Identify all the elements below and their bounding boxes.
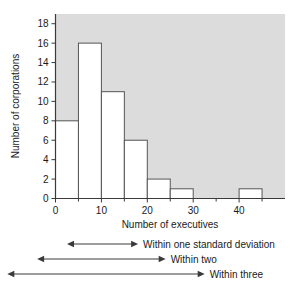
x-tick-label: 10 bbox=[96, 205, 108, 216]
annotation-label: Within two bbox=[171, 254, 218, 265]
histogram-bar bbox=[147, 179, 170, 198]
y-tick-label: 12 bbox=[37, 76, 49, 87]
annotation-arrow-head-right bbox=[159, 256, 166, 262]
annotation-arrow: Within two bbox=[37, 254, 217, 265]
annotation-label: Within three bbox=[210, 269, 264, 280]
histogram-bar bbox=[170, 189, 193, 199]
histogram-bar bbox=[124, 140, 147, 198]
annotation-arrows-group: Within one standard deviationWithin twoW… bbox=[7, 239, 275, 280]
annotation-label: Within one standard deviation bbox=[143, 239, 275, 250]
annotation-arrow-head-left bbox=[7, 271, 14, 277]
annotation-arrow-head-left bbox=[67, 241, 74, 247]
y-tick-label: 18 bbox=[37, 18, 49, 29]
x-axis-ticks: 010203040 bbox=[53, 199, 262, 216]
y-tick-label: 6 bbox=[43, 135, 49, 146]
x-axis-title: Number of executives bbox=[122, 219, 219, 230]
x-tick-label: 30 bbox=[188, 205, 200, 216]
histogram-bar bbox=[239, 189, 262, 199]
histogram-chart: 010203040 024681012141618 Number of exec… bbox=[0, 0, 299, 285]
x-tick-label: 0 bbox=[53, 205, 59, 216]
x-tick-label: 40 bbox=[234, 205, 246, 216]
y-tick-label: 16 bbox=[37, 38, 49, 49]
annotation-arrow-head-right bbox=[198, 271, 205, 277]
annotation-arrow: Within one standard deviation bbox=[67, 239, 275, 250]
annotation-arrow: Within three bbox=[7, 269, 263, 280]
y-tick-label: 10 bbox=[37, 96, 49, 107]
annotation-arrow-head-left bbox=[37, 256, 44, 262]
y-axis-ticks: 024681012141618 bbox=[37, 18, 55, 204]
histogram-figure: 010203040 024681012141618 Number of exec… bbox=[0, 0, 299, 285]
y-tick-label: 2 bbox=[43, 174, 49, 185]
y-axis-title: Number of corporations bbox=[10, 54, 21, 159]
y-tick-label: 4 bbox=[43, 154, 49, 165]
y-tick-label: 14 bbox=[37, 57, 49, 68]
x-tick-label: 20 bbox=[142, 205, 154, 216]
y-tick-label: 8 bbox=[43, 115, 49, 126]
histogram-bar bbox=[78, 43, 101, 198]
annotation-arrow-head-right bbox=[131, 241, 138, 247]
histogram-bar bbox=[56, 121, 79, 199]
y-tick-label: 0 bbox=[43, 193, 49, 204]
histogram-bar bbox=[101, 92, 124, 199]
